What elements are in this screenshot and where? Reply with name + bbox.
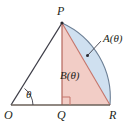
- label-angle-theta: θ: [26, 89, 31, 100]
- label-point-r: R: [109, 109, 116, 121]
- label-region-b: B(θ): [60, 70, 79, 81]
- label-region-a: A(θ): [103, 33, 122, 44]
- label-point-q: Q: [57, 109, 66, 121]
- label-point-p: P: [57, 5, 64, 17]
- label-point-o: O: [4, 109, 13, 121]
- leader-dot-A: [86, 54, 89, 57]
- figure-container: P O Q R A(θ) B(θ) θ: [0, 0, 135, 130]
- segment-OP: [11, 23, 62, 105]
- vertex-dot-P: [60, 21, 63, 24]
